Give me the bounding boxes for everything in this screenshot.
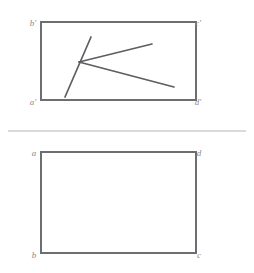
front-view-label-bottom_left: a'	[30, 97, 38, 107]
top-view-label-top_right: d	[197, 148, 202, 158]
projection-drawing: b'c'a'd'adbc	[0, 0, 254, 273]
front-view-stroke-diagonal	[65, 37, 91, 97]
front-view-label-bottom_right: d'	[195, 97, 203, 107]
drawing-canvas: b'c'a'd'adbc	[0, 0, 254, 273]
top-view-rectangle	[41, 152, 196, 253]
top-view: adbc	[32, 148, 202, 260]
front-view: b'c'a'd'	[30, 18, 203, 107]
top-view-label-top_left: a	[32, 148, 37, 158]
front-view-label-top_right: c'	[195, 18, 202, 28]
front-view-label-top_left: b'	[30, 18, 38, 28]
front-view-stroke-upper-ray	[79, 44, 152, 62]
front-view-stroke-lower-ray	[79, 62, 174, 87]
front-view-rectangle	[41, 22, 196, 100]
top-view-label-bottom_left: b	[32, 250, 37, 260]
top-view-label-bottom_right: c	[197, 250, 201, 260]
